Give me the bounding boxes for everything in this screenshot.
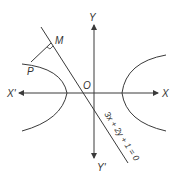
segment-pm (31, 43, 51, 62)
line-3x-2y-1 (41, 27, 128, 163)
label-x-positive: X (161, 88, 169, 99)
label-point-p: P (27, 66, 34, 77)
label-y-negative: Y' (97, 162, 107, 173)
label-y-positive: Y (89, 12, 97, 23)
label-origin: O (83, 80, 91, 91)
diagram-canvas: Y Y' X X' O M P 3x + 2y + 1 = 0 (0, 0, 184, 175)
label-point-m: M (55, 35, 64, 46)
label-x-negative: X' (6, 88, 17, 99)
